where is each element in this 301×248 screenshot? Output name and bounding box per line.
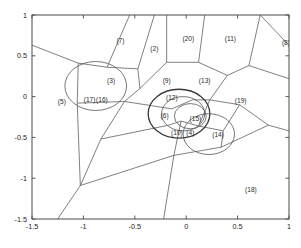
- voronoi-edge: [199, 15, 205, 62]
- region-label: (2): [150, 45, 158, 53]
- x-axis-tick-label: -1: [80, 222, 86, 231]
- voronoi-edge: [77, 103, 80, 185]
- voronoi-edge: [210, 75, 227, 99]
- x-axis-tick-label: -1.5: [26, 222, 38, 231]
- region-label: (11): [225, 35, 236, 43]
- voronoi-edge: [58, 186, 81, 219]
- region-labels-group: (7)(2)(20)(11)(8)(3)(9)(13)(5)(17)(16)(1…: [58, 35, 290, 194]
- x-axis-tick-label: -0.5: [129, 222, 141, 231]
- voronoi-edge: [221, 125, 268, 147]
- region-label: (4): [186, 129, 194, 137]
- voronoi-edge: [249, 15, 260, 66]
- y-axis-tick-label: -1.5: [15, 215, 27, 224]
- region-label: (8): [282, 39, 290, 47]
- region-label: (13): [199, 77, 211, 85]
- y-axis-tick-label: -0.5: [15, 133, 27, 142]
- y-axis-tick-label: 0.5: [17, 51, 27, 60]
- region-label: (14): [212, 131, 224, 139]
- voronoi-edge: [107, 67, 138, 69]
- voronoi-edge: [32, 45, 78, 63]
- voronoi-edge: [268, 125, 289, 131]
- x-axis-tick-label: 0: [184, 222, 188, 231]
- voronoi-edge: [140, 62, 167, 88]
- x-axis-tick-label: 0.5: [233, 222, 243, 231]
- region-label: (19): [235, 97, 247, 105]
- voronoi-edge: [138, 15, 154, 69]
- region-label: (6): [161, 112, 169, 120]
- region-label: (12): [166, 94, 178, 102]
- region-label: (5): [58, 98, 66, 106]
- region-label: (17): [84, 96, 96, 104]
- voronoi-edge: [227, 66, 249, 76]
- y-axis-tick-label: 1: [23, 11, 27, 20]
- x-axis-tick-label: 1: [287, 222, 291, 231]
- region-label: (7): [116, 37, 124, 45]
- region-label: (9): [163, 77, 171, 85]
- voronoi-edge: [199, 62, 228, 75]
- figure-canvas: -1.5-1-0.500.5110.50-0.5-1-1.5(7)(2)(20)…: [0, 0, 301, 248]
- region-label: (16): [96, 96, 108, 104]
- voronoi-edge: [249, 66, 289, 79]
- cluster-circles-group: [65, 62, 235, 155]
- voronoi-edge: [80, 155, 174, 185]
- region-label: (10): [171, 129, 183, 137]
- voronoi-edge: [101, 101, 125, 139]
- voronoi-edge: [223, 105, 239, 131]
- voronoi-edge: [125, 88, 140, 101]
- y-axis-tick-label: -1: [21, 174, 27, 183]
- voronoi-edge: [80, 139, 101, 186]
- voronoi-edge: [169, 121, 181, 125]
- voronoi-edge: [172, 100, 193, 109]
- y-axis-tick-label: 0: [23, 92, 27, 101]
- voronoi-plot: -1.5-1-0.500.5110.50-0.5-1-1.5(7)(2)(20)…: [0, 0, 301, 248]
- region-label: (20): [182, 35, 194, 43]
- region-label: (3): [107, 77, 115, 85]
- voronoi-edge: [77, 63, 78, 103]
- region-label: (18): [245, 186, 257, 194]
- voronoi-edge: [164, 155, 174, 219]
- voronoi-edge: [240, 105, 269, 125]
- region-label: (15): [190, 115, 202, 123]
- voronoi-edge: [138, 69, 140, 89]
